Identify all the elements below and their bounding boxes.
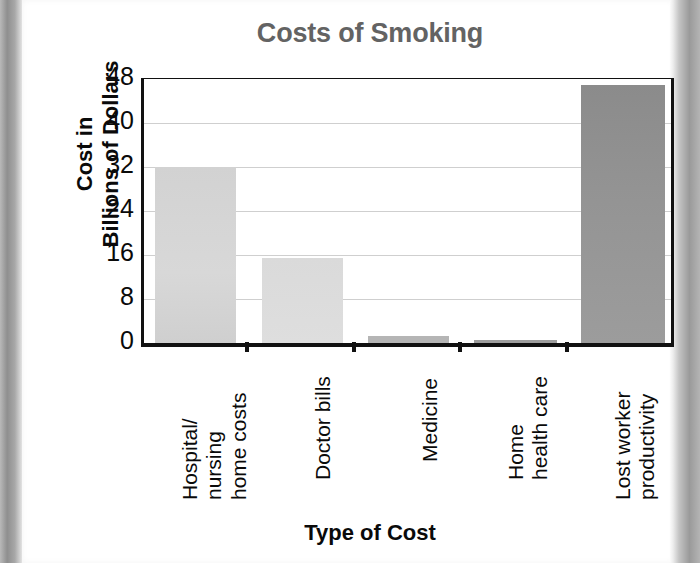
bar-lost-worker-productivity[interactable] [581, 85, 665, 344]
chart-page: Costs of Smoking Cost in Billions of Dol… [0, 0, 700, 563]
y-tick-label: 32 [82, 150, 134, 179]
x-tick-mark [352, 342, 356, 352]
x-tick-mark [565, 342, 569, 352]
y-tick-label: 8 [82, 282, 134, 311]
x-tick-mark [245, 342, 249, 352]
y-tick-label: 48 [82, 62, 134, 91]
x-category-label-hospital: Hospital/ nursing home costs [178, 352, 198, 500]
x-category-label-medicine: Medicine [418, 352, 438, 462]
y-tick-label: 40 [82, 106, 134, 135]
x-axis-title: Type of Cost [120, 520, 620, 546]
page-edge-left-shadow [0, 0, 24, 563]
x-category-label-lost-worker-productivity: Lost worker productivity [611, 352, 631, 500]
bar-doctor-bills[interactable] [262, 258, 343, 343]
x-category-label-doctor-bills: Doctor bills [311, 352, 331, 480]
chart-title: Costs of Smoking [120, 18, 620, 49]
y-tick-label: 16 [82, 238, 134, 267]
plot-inner [144, 79, 671, 343]
bar-hospital-nursing-home-costs[interactable] [155, 167, 236, 343]
y-axis-tick-labels: 48 40 32 24 16 8 0 [78, 78, 134, 342]
bar-home-health-care[interactable] [474, 340, 557, 343]
page-edge-right-shadow [670, 0, 700, 563]
x-tick-mark [458, 342, 462, 352]
x-category-label-home-health-care: Home health care [504, 352, 524, 480]
y-tick-label: 0 [82, 326, 134, 355]
plot-area [141, 78, 674, 347]
bar-medicine[interactable] [368, 336, 449, 343]
y-tick-label: 24 [82, 194, 134, 223]
